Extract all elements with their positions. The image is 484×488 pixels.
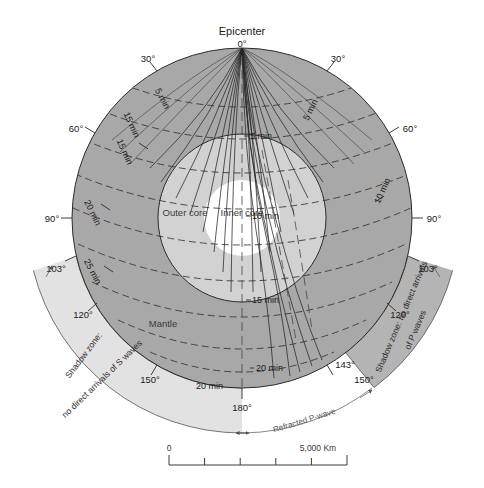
time-label-20min-left: 20 min (196, 381, 223, 391)
angle-label-right-90: 90° (427, 213, 442, 224)
angle-label-left-120: 120° (73, 309, 93, 320)
angle-label-left-30: 30° (141, 53, 156, 64)
shadow-p-edge-arrow (360, 390, 372, 398)
refracted-p-wave-label: Refracted P-wave (272, 407, 337, 435)
angle-label-left-90: 90° (45, 213, 60, 224)
time-label-15min-center: 15 min (252, 295, 279, 305)
angle-label-bottom-180: 180° (232, 402, 252, 413)
outer-core-label-line1: Outer core (163, 207, 208, 218)
seismic-wave-diagram: Epicenter 0° 30° 60° 90° 103° 120° 150° … (0, 0, 484, 488)
refracted-p-wave-arc (242, 388, 372, 433)
angle-label-right-150: 150° (354, 374, 374, 385)
diagram-canvas: Epicenter 0° 30° 60° 90° 103° 120° 150° … (0, 0, 484, 488)
angle-label-right-143: 143° (335, 359, 355, 370)
time-label-10min-center: 10 min (252, 211, 279, 221)
time-label-20min-center: 20 min (256, 363, 283, 373)
angle-label-left-150: 150° (140, 374, 160, 385)
scale-end-label: 5,000 Km (300, 443, 336, 453)
time-label-5min-center: 5 min (250, 131, 272, 141)
angle-label-left-103: 103° (46, 263, 66, 274)
angle-label-left-60: 60° (69, 123, 84, 134)
mantle-label: Mantle (149, 318, 178, 329)
epicenter-angle-label: 0° (237, 38, 246, 49)
scale-start-label: 0 (167, 443, 172, 453)
scale-bar: 0 5,000 Km (167, 443, 347, 465)
angle-label-right-60: 60° (403, 123, 418, 134)
angle-label-right-30: 30° (331, 53, 346, 64)
epicenter-label: Epicenter (219, 25, 266, 37)
